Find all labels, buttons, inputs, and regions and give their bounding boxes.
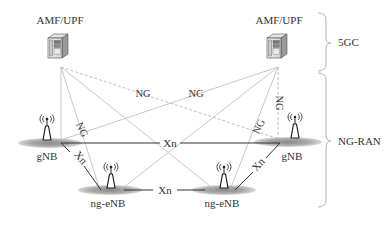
ng-label-right-mid: NG	[188, 88, 204, 99]
core-section-label: 5GC	[338, 36, 359, 48]
ng-label-left-mid: NG	[135, 88, 151, 99]
ng-label-right-diag: NG	[251, 117, 268, 136]
ng-links	[61, 67, 282, 190]
xn-label-bottom: Xn	[158, 184, 172, 196]
ng-label-left-diag: NG	[74, 120, 91, 139]
gnb-right-coverage	[254, 137, 322, 147]
network-architecture-diagram: AMF/UPF AMF/UPF gNB gNB ng-eNB ng-eNB NG…	[0, 0, 391, 225]
ng-label-right-vert: NG	[274, 95, 285, 111]
amf-upf-left-label: AMF/UPF	[36, 14, 83, 26]
xn-label-top: Xn	[163, 137, 177, 149]
gnb-right-label: gNB	[282, 150, 303, 162]
ng-link-amfR-gnbL	[61, 67, 278, 140]
server-icon	[267, 34, 287, 58]
ngenb-right-label: ng-eNB	[205, 197, 240, 209]
antenna-icon	[288, 113, 302, 139]
antenna-icon	[40, 115, 54, 141]
ran-brace	[318, 73, 331, 207]
ngenb-left-label: ng-eNB	[91, 197, 126, 209]
antenna-icon	[217, 163, 231, 189]
xn-links	[61, 143, 280, 190]
amf-upf-left: AMF/UPF	[36, 14, 83, 58]
diagram-canvas: AMF/UPF AMF/UPF gNB gNB ng-eNB ng-eNB NG…	[0, 0, 391, 225]
amf-upf-right: AMF/UPF	[255, 14, 302, 58]
amf-upf-right-label: AMF/UPF	[255, 14, 302, 26]
server-icon	[48, 34, 68, 58]
core-brace	[318, 13, 331, 71]
ran-section-label: NG-RAN	[338, 135, 381, 147]
xn-label-right-diag: Xn	[249, 155, 267, 173]
gnb-left-label: gNB	[37, 150, 58, 162]
antenna-icon	[104, 163, 118, 189]
